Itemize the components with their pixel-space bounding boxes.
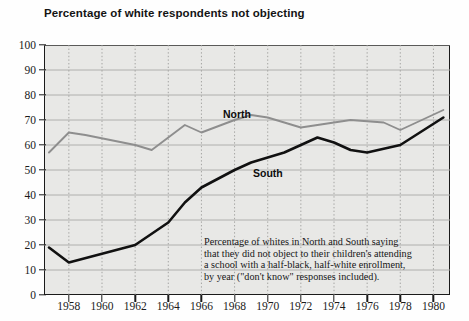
y-tick-mark [39,244,46,245]
y-tick-mark [39,194,46,195]
caption-line: by year ("don't know" responses included… [204,271,419,283]
y-tick-label: 30 [2,214,36,226]
caption-line: that they did not object to their childr… [204,248,419,260]
x-tick-mark [333,295,334,302]
x-tick-mark [201,295,202,302]
y-tick-mark [39,219,46,220]
y-tick-mark [39,94,46,95]
x-tick-mark [366,295,367,302]
y-tick-label: 60 [2,139,36,151]
x-tick-mark [168,295,169,302]
y-tick-mark [39,294,46,295]
caption-line: Percentage of whites in North and South … [204,236,419,248]
figure-container: Percentage of white respondents not obje… [0,0,469,321]
x-tick-mark [433,295,434,302]
x-tick-mark [400,295,401,302]
y-tick-label: 50 [2,164,36,176]
y-tick-mark [39,269,46,270]
y-tick-label: 10 [2,264,36,276]
y-tick-label: 0 [2,289,36,301]
chart-title: Percentage of white respondents not obje… [44,7,305,19]
x-tick-mark [234,295,235,302]
y-tick-label: 70 [2,114,36,126]
x-tick-mark [101,295,102,302]
series-label-south: South [253,167,283,179]
y-tick-mark [39,119,46,120]
y-tick-label: 90 [2,64,36,76]
series-label-north: North [223,108,251,120]
y-tick-mark [39,169,46,170]
y-tick-label: 40 [2,189,36,201]
x-tick-mark [300,295,301,302]
x-tick-mark [267,295,268,302]
y-tick-mark [39,144,46,145]
y-tick-label: 20 [2,239,36,251]
x-tick-mark [134,295,135,302]
y-tick-label: 80 [2,89,36,101]
caption-line: a school with a half-black, half-white e… [204,259,419,271]
y-tick-label: 100 [2,39,36,51]
chart-caption: Percentage of whites in North and South … [204,236,419,282]
x-tick-mark [68,295,69,302]
y-tick-mark [39,44,46,45]
y-tick-mark [39,69,46,70]
